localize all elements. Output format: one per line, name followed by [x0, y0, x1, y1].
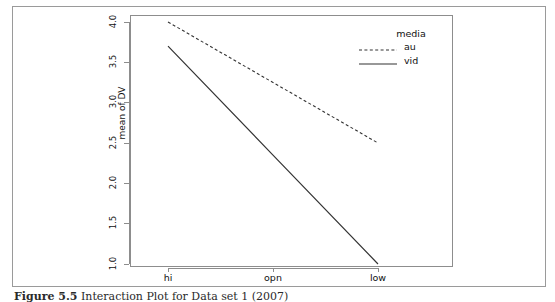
legend: media au vid [357, 28, 445, 68]
series-line-vid [168, 46, 378, 264]
legend-item-vid: vid [357, 54, 445, 68]
figure-caption: Figure 5.5 Interaction Plot for Data set… [14, 290, 288, 302]
legend-item-au: au [357, 40, 445, 54]
legend-key-dashed [357, 41, 399, 53]
legend-label-vid: vid [399, 55, 418, 67]
figure-caption-text: Interaction Plot for Data set 1 (2007) [81, 290, 288, 302]
interaction-plot: 4.0 3.5 3.0 2.5 2.0 1.5 1.0 mean of DV h… [0, 0, 555, 302]
legend-title: media [357, 28, 445, 40]
legend-key-solid [357, 55, 399, 67]
series-line-au [168, 22, 378, 143]
legend-label-au: au [399, 41, 416, 53]
data-series-layer [0, 0, 555, 302]
figure-caption-label: Figure 5.5 [14, 290, 77, 302]
